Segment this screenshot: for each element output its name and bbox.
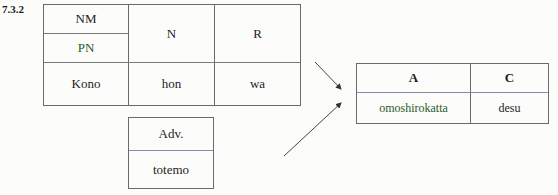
arrow-up-right-icon	[284, 103, 341, 156]
arrows	[0, 0, 558, 195]
arrow-down-right-icon	[315, 62, 341, 89]
